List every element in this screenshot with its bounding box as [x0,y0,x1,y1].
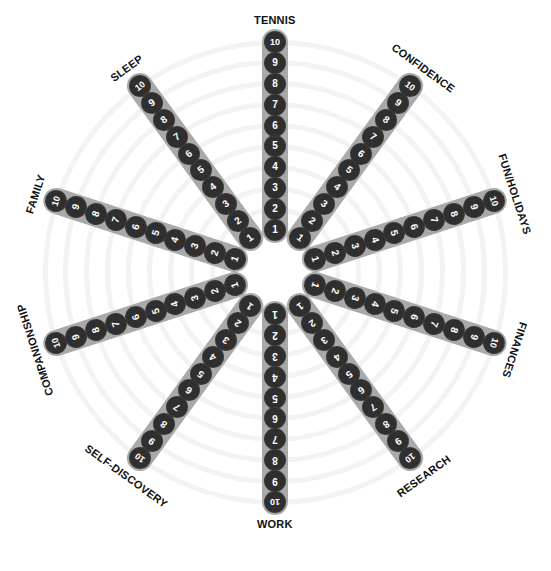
rating-dot-tennis-5[interactable]: 5 [265,136,285,156]
rating-dot-work-5[interactable]: 5 [265,388,285,408]
rating-dot-work-2[interactable]: 2 [265,325,285,345]
rating-dot-work-4[interactable]: 4 [265,367,285,387]
rating-dot-tennis-7[interactable]: 7 [265,95,285,115]
rating-dot-tennis-9[interactable]: 9 [265,53,285,73]
rating-dot-work-1[interactable]: 1 [265,304,285,324]
rating-dot-tennis-8[interactable]: 8 [265,74,285,94]
wheel-of-life: 12345678910TENNIS12345678910CONFIDENCE12… [0,0,551,571]
category-label-work: WORK [257,518,293,530]
category-label-family: FAMILY [23,173,47,215]
rating-dot-work-9[interactable]: 9 [265,471,285,491]
rating-dot-work-10[interactable]: 10 [265,492,285,512]
rating-dot-tennis-4[interactable]: 4 [265,157,285,177]
rating-dot-work-3[interactable]: 3 [265,346,285,366]
rating-dot-tennis-2[interactable]: 2 [265,199,285,219]
rating-dot-tennis-1[interactable]: 1 [265,220,285,240]
rating-dot-tennis-3[interactable]: 3 [265,178,285,198]
rating-dot-tennis-6[interactable]: 6 [265,116,285,136]
rating-dot-tennis-10[interactable]: 10 [265,32,285,52]
category-label-tennis: TENNIS [254,14,296,26]
